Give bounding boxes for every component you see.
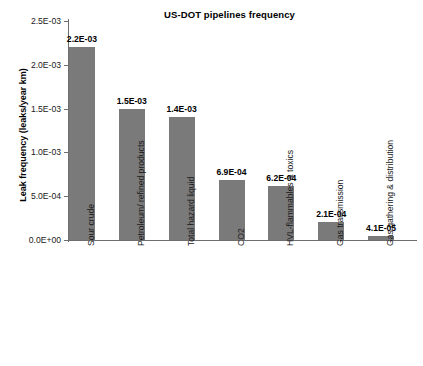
bar-value-label: 1.5E-03 (117, 96, 147, 106)
x-tick-label: Petroleum/ refined products (136, 140, 146, 246)
y-tick-mark (64, 240, 68, 241)
bar-chart: US-DOT pipelines frequency Leak frequenc… (0, 0, 423, 366)
bar-value-label: 6.9E-04 (216, 167, 246, 177)
y-tick-mark (64, 109, 68, 110)
y-tick-label: 1.0E-03 (31, 147, 61, 157)
bar-value-label: 1.4E-03 (167, 104, 197, 114)
y-tick-label: 0.0E+00 (29, 235, 61, 245)
chart-title: US-DOT pipelines frequency (0, 9, 423, 20)
bar-value-label: 2.2E-03 (67, 34, 97, 44)
x-tick-label: CO2 (236, 228, 246, 246)
y-tick-label: 2.0E-03 (31, 60, 61, 70)
y-axis-title: Leak frequency (leaks/year km) (18, 40, 28, 230)
x-tick-label: Sour crude (86, 204, 96, 246)
plot-area: 2.5E-032.0E-031.5E-031.0E-035.0E-040.0E+… (68, 21, 417, 240)
y-tick-label: 5.0E-04 (31, 191, 61, 201)
y-tick-mark (64, 196, 68, 197)
y-tick-mark (64, 152, 68, 153)
x-tick-label: Gas transmission (335, 180, 345, 246)
y-tick-mark (64, 21, 68, 22)
x-tick-label: Gas gathering & distribution (385, 140, 395, 246)
y-tick-mark (64, 65, 68, 66)
y-tick-label: 1.5E-03 (31, 104, 61, 114)
x-tick-label: HVL-flammables & toxics (285, 150, 295, 246)
x-tick-label: Total hazard liquid (186, 177, 196, 246)
y-tick-label: 2.5E-03 (31, 16, 61, 26)
